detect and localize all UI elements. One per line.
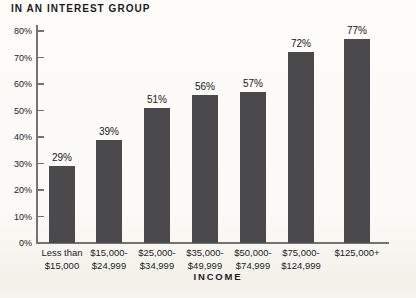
bar-value-label: 57%	[233, 78, 273, 90]
bar-value-label: 56%	[185, 81, 225, 93]
bar-value-label: 51%	[137, 94, 177, 106]
x-axis-title: INCOME	[42, 271, 394, 282]
bar	[192, 95, 218, 243]
bar-value-label: 72%	[281, 38, 321, 50]
x-tick-label: $125,000+	[323, 246, 391, 259]
chart-title: IN AN INTEREST GROUP	[11, 3, 151, 14]
bar-value-label: 39%	[89, 126, 129, 138]
x-tick-label-line: $125,000+	[323, 246, 391, 259]
bar	[144, 108, 170, 243]
bar	[344, 39, 370, 243]
bar-value-label: 77%	[337, 25, 377, 37]
bar-value-label: 29%	[42, 152, 82, 164]
y-tick	[38, 189, 44, 190]
y-tick-label: 60%	[0, 78, 32, 90]
bar-chart-figure: IN AN INTEREST GROUP 0%10%20%30%40%50%60…	[0, 0, 416, 298]
y-tick	[38, 110, 44, 111]
y-tick-label: 70%	[0, 52, 32, 64]
y-tick-label: 50%	[0, 105, 32, 117]
bar	[96, 140, 122, 243]
y-tick	[38, 216, 44, 217]
y-tick	[38, 30, 44, 31]
y-tick	[38, 57, 44, 58]
y-tick-label: 30%	[0, 158, 32, 170]
y-tick-label: 10%	[0, 211, 32, 223]
bar	[288, 52, 314, 243]
bar	[240, 92, 266, 243]
y-tick-label: 20%	[0, 184, 32, 196]
y-tick	[38, 136, 44, 137]
y-tick-label: 40%	[0, 131, 32, 143]
y-tick-label: 80%	[0, 25, 32, 37]
y-tick	[38, 83, 44, 84]
bar	[49, 166, 75, 243]
